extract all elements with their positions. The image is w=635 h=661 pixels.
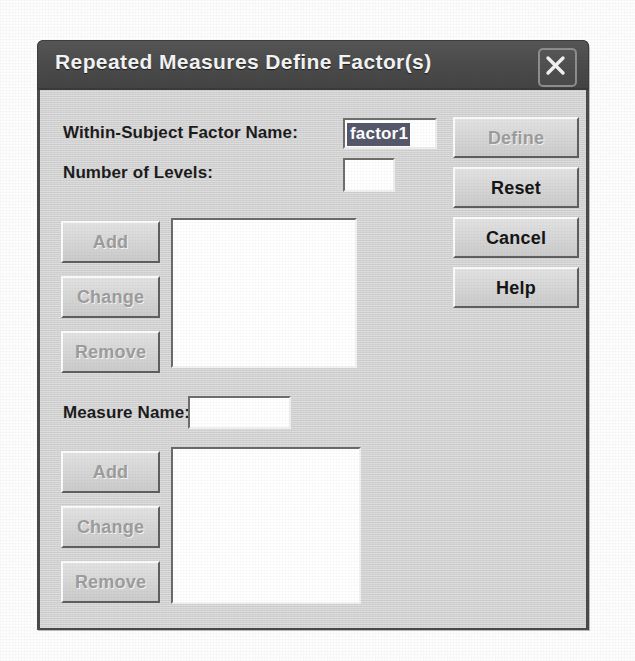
measure-add-button[interactable]: Add [61,451,160,493]
factor-remove-button[interactable]: Remove [61,331,160,373]
dialog-title: Repeated Measures Define Factor(s) [55,50,432,74]
factor-change-label: Change [77,288,144,306]
help-button[interactable]: Help [453,267,579,308]
define-label: Define [488,129,544,147]
dialog-body: Within-Subject Factor Name: factor1 Numb… [40,90,586,628]
measure-names-listbox[interactable] [171,447,361,604]
measure-add-label: Add [93,463,129,481]
factor-change-button[interactable]: Change [61,276,160,318]
help-label: Help [496,279,536,297]
factor-add-button[interactable]: Add [61,221,160,263]
within-subject-factors-listbox[interactable] [171,218,357,368]
measure-change-label: Change [77,518,144,536]
within-subject-factor-name-input[interactable]: factor1 [343,118,437,149]
measure-change-button[interactable]: Change [61,506,160,548]
measure-name-label: Measure Name: [63,403,190,423]
within-subject-factor-name-label: Within-Subject Factor Name: [63,123,298,143]
cancel-label: Cancel [486,229,546,247]
repeated-measures-define-factors-dialog: Repeated Measures Define Factor(s) Withi… [37,40,589,630]
scanned-page-background: Repeated Measures Define Factor(s) Withi… [0,0,635,661]
close-icon[interactable] [538,48,577,87]
factor-remove-label: Remove [75,343,146,361]
measure-name-input[interactable] [188,396,291,429]
factor-name-selected-text: factor1 [347,123,410,146]
reset-label: Reset [491,179,541,197]
define-button[interactable]: Define [453,117,579,158]
measure-remove-label: Remove [75,573,146,591]
dialog-titlebar: Repeated Measures Define Factor(s) [37,40,589,90]
measure-remove-button[interactable]: Remove [61,561,160,603]
reset-button[interactable]: Reset [453,167,579,208]
cancel-button[interactable]: Cancel [453,217,579,258]
factor-add-label: Add [93,233,129,251]
number-of-levels-label: Number of Levels: [63,163,213,183]
number-of-levels-input[interactable] [343,158,395,192]
